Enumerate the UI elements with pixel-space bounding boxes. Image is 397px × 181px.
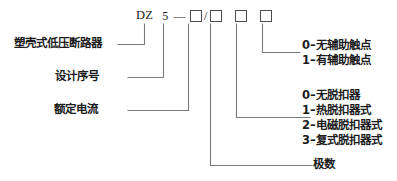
group-release-type-options: 0–无脱扣器 1–热脱扣器式 2–电磁脱扣器式 3–复式脱扣器式 [302,88,382,148]
code-dash: — [174,10,186,22]
code-box-aux-contact [260,10,272,22]
aux-contact-option-1: 1–有辅助触点 [302,53,371,68]
model-designation-diagram: DZ 5 — / 塑壳式低压断路器 设计序号 额定电流 0–无辅助触点 1–有辅… [0,0,397,181]
leader-poles [211,24,313,166]
code-box-poles [210,10,222,22]
release-option-2: 2–电磁脱扣器式 [302,118,382,133]
leader-aux-contact [263,24,301,53]
label-molded-case-breaker: 塑壳式低压断路器 [14,38,102,50]
leader-molded-case [118,24,145,45]
code-prefix-dz: DZ [136,9,153,22]
leader-design-no [128,24,164,78]
code-box-rated-current [190,10,202,22]
code-box-release-type [235,10,247,22]
group-auxiliary-contact-options: 0–无辅助触点 1–有辅助触点 [302,38,371,68]
leader-rated-current [128,24,189,111]
release-option-0: 0–无脱扣器 [302,88,382,103]
label-rated-current: 额定电流 [54,104,98,116]
label-design-serial-number: 设计序号 [55,71,99,83]
aux-contact-option-0: 0–无辅助触点 [302,38,371,53]
label-number-of-poles: 极数 [313,157,335,172]
code-series-number: 5 [162,10,168,22]
leader-release-type [237,24,311,118]
designation-code-row: DZ 5 — / [136,7,272,24]
release-option-1: 1–热脱扣器式 [302,103,382,118]
release-option-3: 3–复式脱扣器式 [302,133,382,148]
code-slash: / [204,10,208,22]
